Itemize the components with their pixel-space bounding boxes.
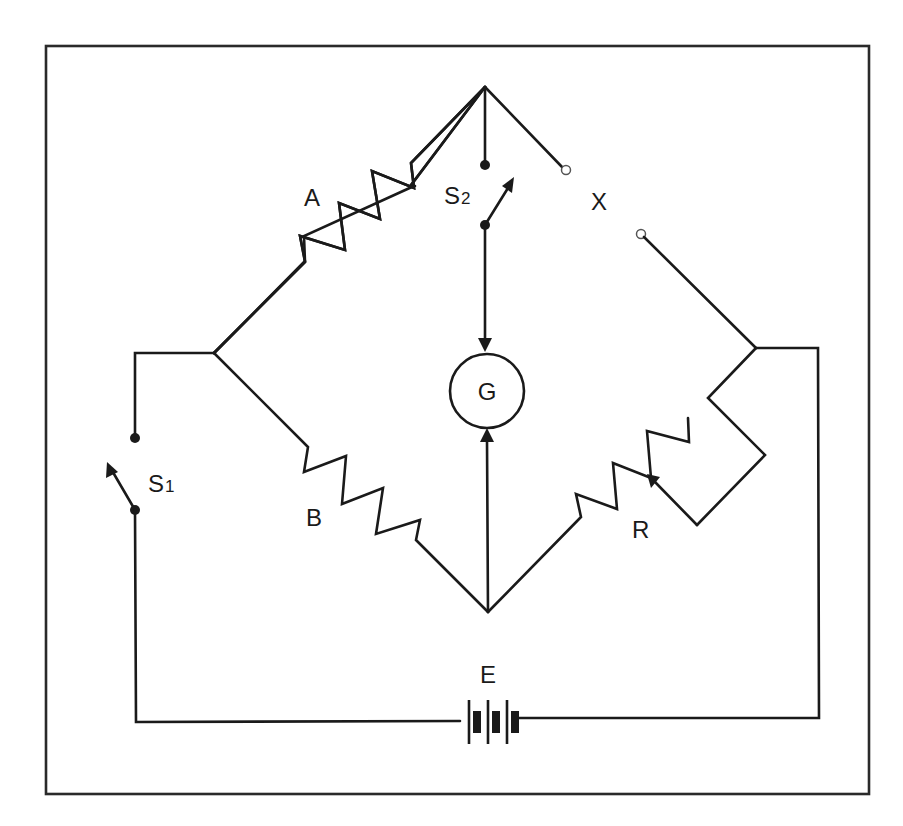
wheatstone-bridge-diagram: G A B X R E S2 S1 (0, 0, 903, 826)
arrow-down-icon (478, 338, 492, 352)
resistor-a-zigzag (214, 87, 485, 353)
switch-s1-main: S (148, 470, 164, 497)
rheostat-r-label: R (632, 516, 649, 543)
switch-s2-label: S2 (444, 182, 470, 209)
s2-arrow-icon (502, 177, 514, 193)
resistor-a-label: A (304, 184, 320, 211)
wire-s1-to-battery (135, 510, 460, 722)
battery (469, 700, 519, 744)
s1-contact-top (130, 433, 140, 443)
wire-g-to-bottom (487, 440, 488, 612)
resistor-b (214, 353, 488, 612)
battery-label: E (480, 661, 496, 688)
resistor-b-label: B (306, 504, 322, 531)
s1-lever[interactable] (114, 474, 135, 510)
s2-lever[interactable] (485, 188, 508, 225)
switch-s1-label: S1 (148, 470, 174, 497)
s2-contact-top (480, 160, 490, 170)
wire-left-outer (135, 353, 214, 438)
switch-s2-sub: 2 (461, 189, 470, 208)
galvanometer-label: G (478, 378, 497, 405)
wire-x-to-right-node (644, 237, 756, 348)
x-terminal-top (562, 166, 571, 175)
unknown-x-label: X (591, 188, 607, 215)
switch-s1-sub: 1 (165, 477, 174, 496)
frame-border (46, 46, 869, 794)
wire-top-to-x (485, 87, 563, 168)
switch-s2-main: S (444, 182, 460, 209)
rheostat-r (488, 348, 765, 612)
